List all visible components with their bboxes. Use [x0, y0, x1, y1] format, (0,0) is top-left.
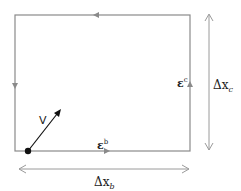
top-edge-left-arrow-icon [93, 12, 99, 18]
delta-x-c-label: Δxc [213, 78, 233, 94]
vector-v-label: V [39, 114, 47, 127]
delta-x-b-label: Δxb [94, 175, 115, 191]
bottom-edge-right-arrow-icon [104, 148, 110, 154]
left-edge-down-arrow-icon [12, 83, 18, 89]
right-edge-up-arrow-icon [187, 81, 193, 87]
loop-rectangle [15, 15, 190, 151]
circulation-diagram: εb εc V Δxc Δxb [0, 0, 241, 191]
origin-dot [25, 148, 31, 154]
epsilon-c-label: εc [177, 76, 188, 90]
